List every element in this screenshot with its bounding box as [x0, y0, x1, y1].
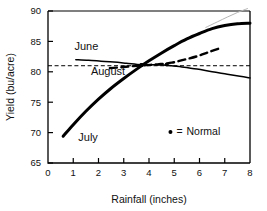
legend-dot-icon	[168, 130, 172, 134]
y-tick-label: 90	[30, 5, 41, 16]
x-tick-label: 5	[172, 167, 177, 178]
chart-figure: 657075808590 012345678 JuneAugustJuly =N…	[0, 0, 267, 211]
normal-point-marker-july	[139, 63, 143, 67]
y-axis-title: Yield (bu/acre)	[4, 53, 16, 121]
y-tick-label: 65	[30, 157, 41, 168]
x-axis-title: Rainfall (inches)	[111, 193, 186, 205]
x-tick-label: 8	[247, 167, 252, 178]
y-tick-label: 80	[30, 66, 41, 77]
curve-label-july: July	[78, 131, 98, 143]
x-tick-label: 4	[146, 167, 151, 178]
legend-equals-sign: =	[176, 125, 182, 137]
yield-vs-rainfall-chart: 657075808590 012345678 JuneAugustJuly =N…	[0, 0, 267, 211]
x-tick-label: 3	[121, 167, 126, 178]
x-tick-label: 0	[45, 167, 50, 178]
x-tick-label: 2	[96, 167, 101, 178]
curve-label-june: June	[75, 40, 99, 52]
curve-label-august: August	[91, 65, 125, 77]
normal-point-marker-august	[165, 63, 169, 67]
y-tick-label: 75	[30, 97, 41, 108]
legend-label-normal: Normal	[186, 125, 220, 137]
x-tick-label: 6	[197, 167, 202, 178]
chart-legend: =Normal	[168, 125, 220, 137]
y-tick-label: 70	[30, 127, 41, 138]
x-tick-label: 7	[222, 167, 227, 178]
x-tick-label: 1	[71, 167, 76, 178]
y-tick-label: 85	[30, 36, 41, 47]
